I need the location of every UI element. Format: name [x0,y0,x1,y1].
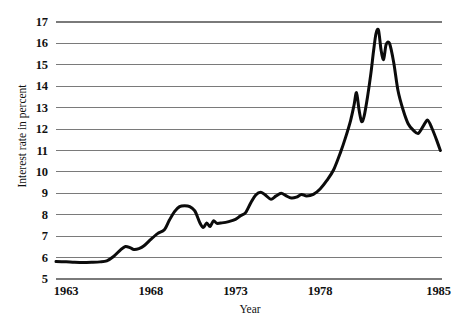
y-tick-label-6: 6 [26,252,48,264]
y-tick-label-13: 13 [26,102,48,114]
interest-rate-chart: 171615141312111098765 196319681973197819… [0,0,470,334]
x-tick-label-1978: 1978 [290,285,350,298]
x-tick-label-1985: 1985 [409,285,469,298]
y-tick-label-16: 16 [26,37,48,49]
y-tick-label-10: 10 [26,166,48,178]
y-tick-label-9: 9 [26,187,48,199]
y-tick-label-15: 15 [26,59,48,71]
x-tick-label-1973: 1973 [205,285,265,298]
data-series-group [56,29,440,262]
y-tick-label-11: 11 [26,145,48,157]
y-tick-label-5: 5 [26,273,48,285]
y-axis-title: Interest rate in percent [16,66,28,206]
x-tick-label-1968: 1968 [121,285,181,298]
y-tick-label-17: 17 [26,16,48,28]
y-tick-label-7: 7 [26,230,48,242]
data-line-0 [56,29,440,262]
y-tick-label-12: 12 [26,123,48,135]
x-axis-title: Year [210,303,290,315]
x-tick-label-1963: 1963 [36,285,96,298]
y-tick-label-14: 14 [26,80,48,92]
y-tick-label-8: 8 [26,209,48,221]
